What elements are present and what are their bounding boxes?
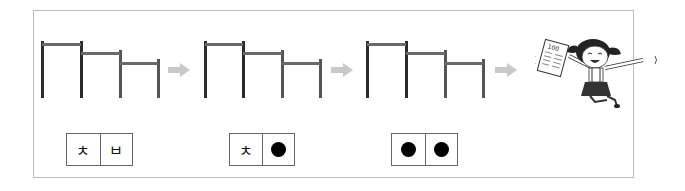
filled-circle-icon: [434, 142, 449, 157]
answer-cell-filled: [392, 134, 425, 165]
bar-post: [482, 59, 485, 98]
answer-cell-filled: [425, 134, 458, 165]
arrow-right-icon: [495, 63, 517, 77]
girl-jumping-illustration: 100: [535, 30, 660, 110]
arrow-right-icon: [331, 63, 353, 77]
bar-post: [242, 41, 245, 98]
bar-post: [204, 41, 207, 98]
answer-cell: ㅊ: [230, 134, 262, 165]
bar-post: [119, 50, 122, 98]
bar-post: [444, 50, 447, 98]
answer-cell: ㅊ: [67, 134, 100, 165]
answer-cell-filled: [262, 134, 294, 165]
bar-post: [157, 59, 160, 98]
filled-circle-icon: [271, 142, 286, 157]
answer-box-2: ㅊ: [229, 133, 295, 166]
bar-rail-mid: [406, 52, 445, 55]
arrow-right-icon: [168, 63, 190, 77]
bar-rail-mid: [243, 52, 282, 55]
bar-post: [41, 41, 44, 98]
bar-rail-low: [445, 62, 483, 65]
bar-post: [319, 59, 322, 98]
bar-rail-high: [367, 43, 406, 46]
filled-circle-icon: [401, 142, 416, 157]
bar-rail-low: [120, 62, 158, 65]
bar-rail-mid: [81, 52, 120, 55]
answer-box-1: ㅊ ㅂ: [66, 133, 133, 166]
bar-post: [405, 41, 408, 98]
bar-post: [281, 50, 284, 98]
bar-post: [366, 41, 369, 98]
answer-box-3: [391, 133, 458, 166]
bar-rail-low: [282, 62, 320, 65]
bar-rail-high: [42, 43, 81, 46]
bar-post: [80, 41, 83, 98]
bar-rail-high: [205, 43, 243, 46]
answer-cell: ㅂ: [100, 134, 133, 165]
